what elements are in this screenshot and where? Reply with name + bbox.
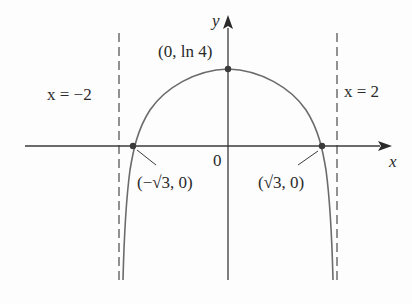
x-axis-arrow-icon	[378, 141, 392, 151]
max-point-label: (0, ln 4)	[158, 43, 212, 60]
y-axis-arrow-icon	[223, 15, 233, 29]
right-intercept-label: (√3, 0)	[258, 174, 304, 191]
right-asymptote-label: x = 2	[344, 83, 379, 100]
y-axis-label: y	[212, 12, 220, 29]
origin-label: 0	[213, 152, 222, 169]
left-intercept-point	[130, 143, 136, 149]
left-pointer-line	[137, 150, 156, 165]
graph-figure: y x 0 x = −2 x = 2 (0, ln 4) (−√3, 0) (√…	[0, 0, 412, 304]
left-asymptote-label: x = −2	[47, 86, 92, 103]
max-point	[225, 66, 231, 72]
right-intercept-point	[319, 143, 325, 149]
right-pointer-line	[298, 151, 318, 165]
x-axis-label: x	[389, 153, 397, 170]
left-intercept-label: (−√3, 0)	[137, 174, 193, 191]
